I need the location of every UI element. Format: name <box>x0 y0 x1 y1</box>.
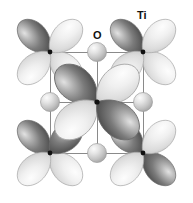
label-ti: Ti <box>137 10 147 21</box>
ti-node-dot <box>141 50 146 55</box>
oxygen-atom-right <box>134 93 153 112</box>
label-o: O <box>93 30 102 41</box>
ti-node-dot <box>48 50 53 55</box>
oxygen-atom-left <box>41 93 60 112</box>
ti-node-dot <box>48 151 53 156</box>
ti-node-dot <box>141 151 146 156</box>
oxygen-atom-bottom <box>88 144 107 163</box>
oxygen-atom-top <box>88 43 107 62</box>
orbital-lattice-figure: Ti O <box>0 0 193 203</box>
ti-node-dot <box>94 99 99 104</box>
